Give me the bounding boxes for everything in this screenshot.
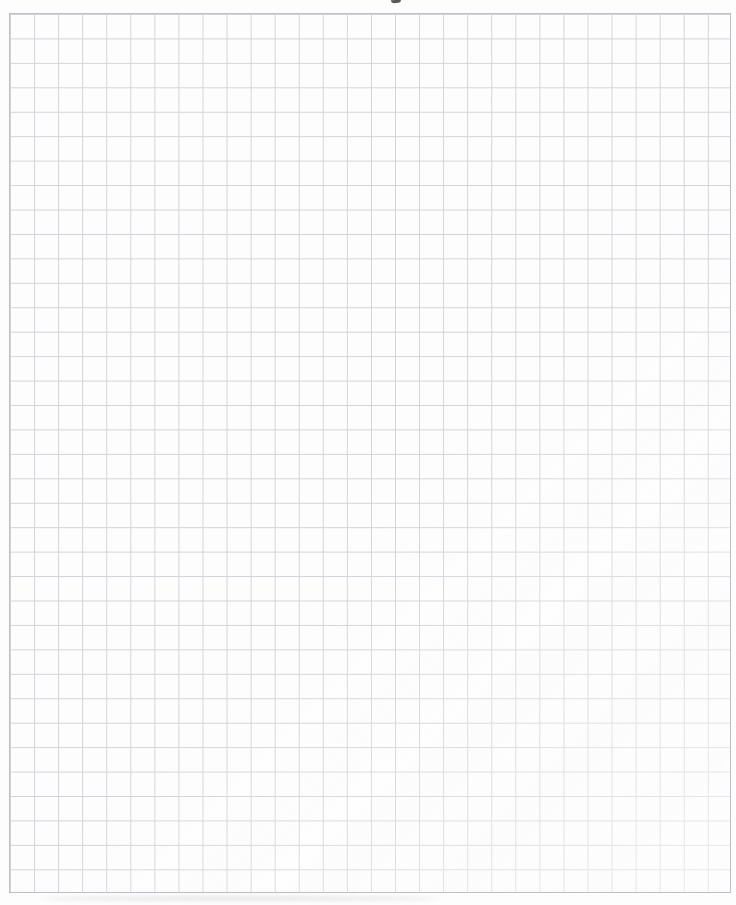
cropped-ink-fragment <box>391 0 401 3</box>
scanner-shadow <box>40 896 440 901</box>
scanned-paper-sheet <box>0 0 736 905</box>
scan-fade-overlay <box>10 14 730 892</box>
graph-paper-grid <box>9 13 731 893</box>
